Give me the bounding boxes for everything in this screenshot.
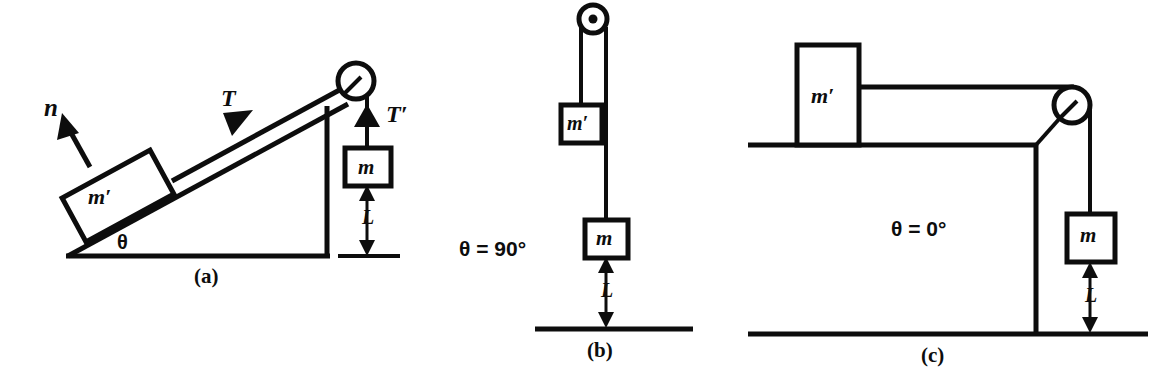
panel-a-tension-prime-label: T′ [386,102,407,126]
panel-b-angle-label: θ = 90° [459,238,526,259]
panel-a-height-label: L [362,207,374,227]
panel-b-height-label: L [601,280,613,300]
panel-c-caption: (c) [921,345,944,366]
panel-c-block-label: m′ [811,85,834,107]
panel-a-pulley [338,63,374,99]
panel-a-tension-label: T [221,86,236,110]
panel-c-height-label: L [1085,285,1097,305]
panel-a-block-label: m′ [88,186,111,208]
panel-b-hanging-mass-label: m [596,228,612,249]
panel-c-angle-label: θ = 0° [891,218,946,239]
figure-canvas [0,0,1166,391]
panel-a-angle-label: θ [117,232,128,252]
panel-c-pulley [1054,87,1090,123]
panel-b-block-label: m′ [567,113,588,133]
physics-figure: n T T′ m′ m L θ (a) m′ m L θ = 90° (b) m… [0,0,1166,391]
panel-a-hanging-mass-label: m [358,157,374,178]
panel-a-normal-force-label: n [44,95,58,120]
panel-a-tension-prime-arrow [354,104,380,148]
panel-b-caption: (b) [587,340,613,361]
panel-b-graphics [535,5,693,329]
panel-a-caption: (a) [194,266,219,287]
panel-c-hanging-mass-label: m [1080,225,1096,246]
panel-a-tension-arrowhead [223,110,253,136]
panel-c-pulley-bracket [1036,118,1060,145]
panel-b-pulley [579,5,607,33]
panel-a-rope-incline [172,87,345,181]
panel-a-normal-force-arrow [57,113,90,167]
